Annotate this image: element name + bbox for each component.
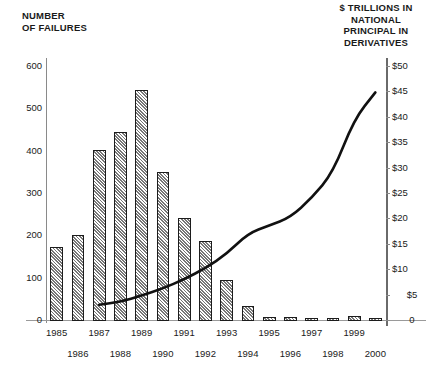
right-tick-label: $25: [392, 188, 432, 198]
right-tick-label: $30: [392, 163, 432, 173]
chart-container: NUMBER OF FAILURES $ TRILLIONS IN NATION…: [0, 0, 439, 373]
right-tick-label: $40: [392, 112, 432, 122]
right-tick-mark: [386, 193, 390, 194]
bar: [135, 90, 148, 321]
right-tick-label: $35: [392, 137, 432, 147]
x-tick-label: 1990: [147, 348, 179, 359]
bar: [242, 306, 255, 321]
right-axis-line: [386, 58, 388, 326]
plot-area: [46, 60, 386, 321]
bar: [199, 241, 212, 321]
right-tick-label: $50: [392, 61, 432, 71]
x-tick-label: 1989: [126, 327, 158, 338]
x-tick-label: 1995: [253, 327, 285, 338]
bar: [114, 132, 127, 321]
x-tick-label: 1987: [83, 327, 115, 338]
bar: [72, 235, 85, 321]
bar: [284, 317, 297, 321]
left-tick-label: 0: [12, 315, 42, 325]
left-axis-ticks: 6005004003002001000: [10, 0, 42, 373]
bar: [305, 318, 318, 321]
x-tick-label: 1988: [104, 348, 136, 359]
right-tick-mark: [386, 117, 390, 118]
bar: [178, 218, 191, 321]
right-tick-mark: [386, 91, 390, 92]
right-tick-mark: [386, 320, 390, 321]
right-tick-label: 0: [392, 315, 432, 325]
x-tick-label: 1993: [211, 327, 243, 338]
x-tick-label: 1997: [296, 327, 328, 338]
right-tick-mark: [386, 218, 390, 219]
right-axis-ticks: $50$45$40$35$30$25$20$15$10$50: [392, 0, 436, 373]
left-tick-label: 100: [12, 273, 42, 283]
x-tick-label: 1994: [232, 348, 264, 359]
bar: [50, 247, 63, 321]
x-tick-label: 1998: [317, 348, 349, 359]
bar: [348, 316, 361, 321]
right-tick-label: $10: [392, 264, 432, 274]
right-tick-mark: [386, 142, 390, 143]
right-tick-mark: [386, 244, 390, 245]
bar: [263, 317, 276, 321]
bar: [157, 172, 170, 321]
left-tick-label: 200: [12, 230, 42, 240]
x-tick-label: 1992: [189, 348, 221, 359]
left-tick-label: 600: [12, 61, 42, 71]
bar: [220, 280, 233, 321]
right-tick-mark: [386, 269, 390, 270]
x-tick-label: 1999: [338, 327, 370, 338]
x-tick-label: 1986: [62, 348, 94, 359]
x-tick-label: 1996: [274, 348, 306, 359]
right-tick-label: $20: [392, 213, 432, 223]
right-tick-mark: [386, 66, 390, 67]
right-tick-mark: [386, 295, 390, 296]
right-tick-label: $5: [392, 290, 432, 300]
x-tick-label: 1985: [41, 327, 73, 338]
right-tick-label: $15: [392, 239, 432, 249]
x-tick-label: 1991: [168, 327, 200, 338]
left-tick-label: 400: [12, 146, 42, 156]
right-tick-mark: [386, 168, 390, 169]
bar: [93, 150, 106, 321]
bar: [369, 318, 382, 321]
left-tick-label: 300: [12, 188, 42, 198]
x-tick-label: 2000: [359, 348, 391, 359]
right-tick-label: $45: [392, 86, 432, 96]
bar: [327, 318, 340, 321]
left-tick-label: 500: [12, 103, 42, 113]
